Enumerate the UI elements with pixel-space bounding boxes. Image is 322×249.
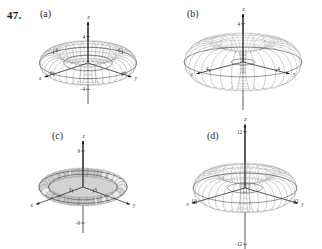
panel-b: (b) 444xyz xyxy=(161,0,322,124)
svg-text:6: 6 xyxy=(55,47,58,53)
svg-text:12: 12 xyxy=(191,198,197,204)
svg-text:z: z xyxy=(81,133,84,139)
panel-b-plot: 444xyz xyxy=(161,0,322,125)
svg-text:z: z xyxy=(86,14,89,20)
panel-d: (d) 12-121212xyz xyxy=(161,124,322,249)
svg-text:12: 12 xyxy=(293,198,299,204)
svg-text:z: z xyxy=(241,6,244,12)
svg-text:12: 12 xyxy=(237,129,243,135)
svg-text:y: y xyxy=(132,202,136,208)
svg-text:6: 6 xyxy=(118,47,121,53)
svg-text:-12: -12 xyxy=(235,241,242,247)
svg-text:4: 4 xyxy=(83,34,86,40)
svg-text:-4: -4 xyxy=(81,86,86,92)
svg-text:x: x xyxy=(30,202,34,208)
svg-text:3: 3 xyxy=(94,187,97,193)
svg-text:-9: -9 xyxy=(76,220,81,226)
panel-a-plot: 4-46666xyz xyxy=(0,0,161,125)
svg-text:y: y xyxy=(300,201,304,207)
svg-text:9: 9 xyxy=(78,148,81,154)
svg-text:x: x xyxy=(38,75,42,81)
panel-a: (a) 4-46666xyz xyxy=(0,0,161,124)
svg-text:x: x xyxy=(185,201,189,207)
svg-text:y: y xyxy=(134,75,138,81)
svg-text:z: z xyxy=(243,116,246,122)
figure-page: 47. (a) 4-46666xyz (b) 444xyz (c) 9-933x… xyxy=(0,0,322,249)
svg-text:4: 4 xyxy=(238,21,241,27)
svg-text:3: 3 xyxy=(69,187,72,193)
svg-text:6: 6 xyxy=(50,70,53,76)
svg-text:6: 6 xyxy=(123,70,126,76)
svg-text:4: 4 xyxy=(206,66,209,72)
panel-c: (c) 9-933xyz xyxy=(0,124,161,249)
panel-c-plot: 9-933xyz xyxy=(0,124,161,249)
panel-d-plot: 12-121212xyz xyxy=(161,124,322,249)
svg-text:4: 4 xyxy=(277,66,280,72)
